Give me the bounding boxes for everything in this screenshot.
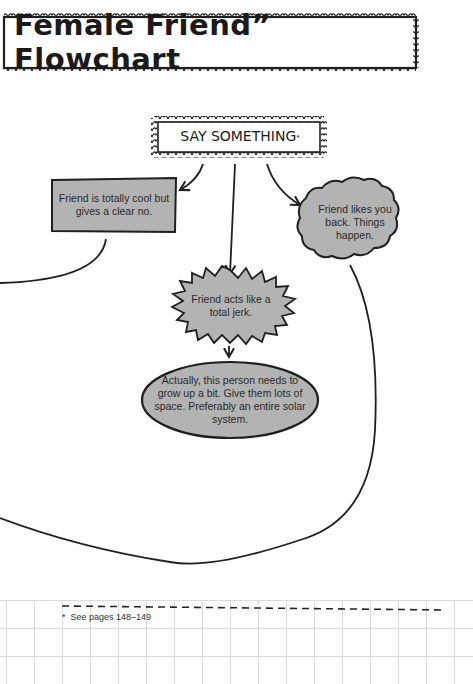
- node-likes-back: Friend likes you back. Things happen.: [310, 194, 400, 250]
- edge-start-to-likes-back: [267, 164, 300, 205]
- footnote-text: See pages 148–149: [71, 612, 152, 622]
- start-node-label: SAY SOMETHING*: [160, 120, 320, 152]
- edge-clear-no-offpage: [0, 239, 106, 283]
- footnote-marker: *: [296, 134, 300, 142]
- node-grow-up: Actually, this person needs to grow up a…: [152, 368, 308, 432]
- edge-start-to-clear-no: [180, 164, 203, 190]
- node-clear-no: Friend is totally cool but gives a clear…: [56, 180, 172, 230]
- page-title: Female Friend” Flowchart: [14, 20, 414, 64]
- footnote: *See pages 148–149: [62, 612, 151, 622]
- edge-start-to-jerk: [230, 164, 235, 274]
- flowchart-canvas: [0, 0, 473, 684]
- node-jerk: Friend acts like a total jerk.: [190, 286, 272, 326]
- footnote-divider: [62, 606, 446, 610]
- footnote-asterisk: *: [62, 612, 66, 622]
- start-label: SAY SOMETHING: [180, 128, 296, 144]
